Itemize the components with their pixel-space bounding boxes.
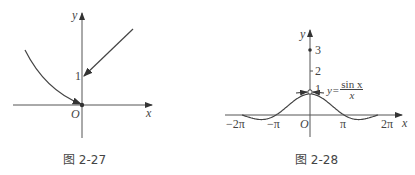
- left-curve: [25, 50, 81, 104]
- y-axis-label: y: [72, 8, 77, 23]
- y-axis-label: y: [300, 27, 305, 42]
- function-fraction: sin x x: [340, 79, 363, 100]
- tick-negpi-label: −π: [267, 117, 280, 132]
- function-lhs: y=: [327, 84, 339, 96]
- tick-1-label: 1: [315, 82, 321, 97]
- arrow-left: [296, 92, 307, 93]
- origin-label: O: [71, 107, 80, 122]
- tick-neg2pi-label: −2π: [226, 117, 245, 132]
- x-axis-label: x: [146, 106, 151, 121]
- tick-1-label: 1: [75, 69, 81, 84]
- function-label: y= sin x x: [327, 79, 363, 100]
- figure-2-27: [13, 13, 152, 138]
- point-3: [308, 48, 312, 52]
- x-axis-label: x: [402, 116, 407, 131]
- tick-2-label: 2: [315, 64, 321, 79]
- hollow-point: [308, 90, 312, 94]
- figure-caption: 图 2-28: [295, 150, 338, 167]
- tick-pi-label: π: [340, 117, 346, 132]
- tick-3-label: 3: [315, 43, 321, 58]
- origin-label: O: [300, 117, 309, 132]
- origin-point: [80, 103, 84, 107]
- right-line: [84, 29, 133, 76]
- figure-2-28: [225, 30, 402, 137]
- figure-caption: 图 2-27: [63, 150, 106, 167]
- function-denominator: x: [349, 90, 354, 100]
- tick-2pi-label: 2π: [381, 117, 393, 132]
